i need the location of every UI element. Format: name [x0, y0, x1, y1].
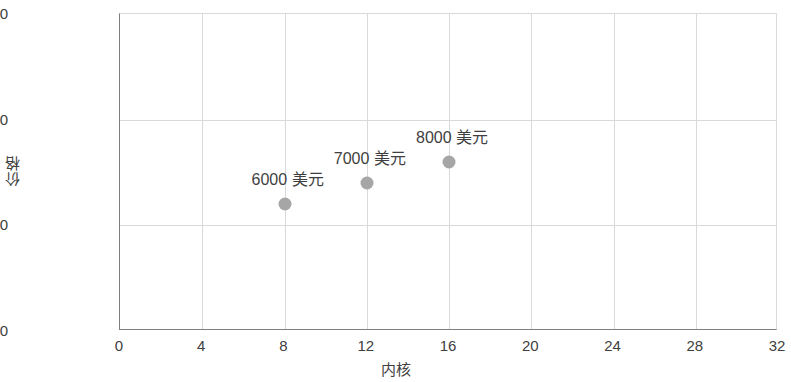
gridline-vertical — [367, 14, 368, 329]
data-point-marker — [278, 198, 291, 211]
data-point-label: 7000 美元 — [334, 145, 406, 169]
gridline-vertical — [614, 14, 615, 329]
x-axis-tick-label: 0 — [115, 337, 123, 354]
gridline-vertical — [449, 14, 450, 329]
x-axis-title: 内核 — [0, 358, 791, 379]
y-axis-tick-label: $15,000 — [0, 5, 8, 22]
gridline-horizontal — [120, 120, 776, 121]
x-axis-tick-label: 8 — [279, 337, 287, 354]
data-point-marker — [360, 177, 373, 190]
x-axis-tick-label: 12 — [357, 337, 374, 354]
gridline-vertical — [202, 14, 203, 329]
x-axis-tick-label: 28 — [686, 337, 703, 354]
data-point-label: 6000 美元 — [251, 166, 323, 190]
y-axis-tick-label: $0 — [0, 322, 8, 339]
x-axis-tick-label: 24 — [604, 337, 621, 354]
x-axis-tick-label: 4 — [197, 337, 205, 354]
y-axis-tick-label: $10,000 — [0, 110, 8, 127]
gridline-vertical — [531, 14, 532, 329]
x-axis-tick-label: 32 — [769, 337, 786, 354]
plot-area: 6000 美元7000 美元8000 美元 — [119, 13, 777, 330]
scatter-chart: 价格 内核 $0$5,000$10,000$15,000 04812162024… — [0, 0, 791, 382]
x-axis-tick-label: 20 — [522, 337, 539, 354]
data-point-marker — [443, 155, 456, 168]
x-axis-tick-label: 16 — [440, 337, 457, 354]
gridline-horizontal — [120, 225, 776, 226]
y-axis-tick-label: $5,000 — [0, 216, 8, 233]
y-axis-title: 价格 — [2, 155, 28, 187]
gridline-vertical — [696, 14, 697, 329]
data-point-label: 8000 美元 — [416, 124, 488, 148]
